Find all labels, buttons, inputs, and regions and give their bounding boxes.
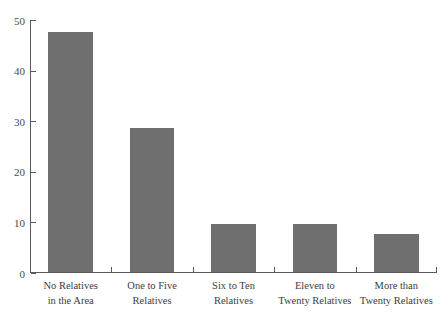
x-category-label-line1: No Relatives [43, 280, 98, 291]
x-category-label: No Relativesin the Area [30, 278, 111, 308]
y-tick-mark [31, 71, 36, 72]
y-tick-mark [31, 172, 36, 173]
x-tick-mark [274, 267, 275, 273]
x-category-label: Eleven toTwenty Relatives [274, 278, 355, 308]
y-tick-label: 40 [14, 66, 25, 77]
y-tick: 40 [30, 71, 36, 72]
bar [374, 234, 419, 272]
x-tick-mark [356, 267, 357, 273]
y-tick: 30 [30, 121, 36, 122]
x-category-label: Six to TenRelatives [193, 278, 274, 308]
y-tick-label: 30 [14, 116, 25, 127]
x-category-label-line2: in the Area [30, 293, 111, 308]
x-category-label-line1: Six to Ten [212, 280, 255, 291]
y-axis-line [30, 20, 31, 273]
x-tick-mark [193, 267, 194, 273]
plot-area: 01020304050 [30, 20, 437, 273]
x-category-label-line2: Relatives [111, 293, 192, 308]
y-tick: 20 [30, 172, 36, 173]
x-axis-right-cap [436, 267, 437, 273]
y-tick-mark [31, 222, 36, 223]
x-tick-mark [111, 267, 112, 273]
y-tick-label: 20 [14, 167, 25, 178]
x-category-label-line1: One to Five [127, 280, 177, 291]
y-tick-mark [31, 20, 36, 21]
x-category-label-line1: Eleven to [295, 280, 335, 291]
x-category-label-line1: More than [375, 280, 418, 291]
y-tick-mark [31, 121, 36, 122]
bar [130, 128, 175, 272]
y-tick-label: 0 [20, 268, 26, 279]
y-tick-label: 50 [14, 15, 25, 26]
y-tick: 0 [30, 273, 36, 274]
x-category-label: More thanTwenty Relatives [356, 278, 437, 308]
bar [211, 224, 256, 272]
x-category-label-line2: Twenty Relatives [274, 293, 355, 308]
bar-chart-figure: 01020304050 No Relativesin the AreaOne t… [0, 0, 446, 319]
bar [293, 224, 338, 272]
x-category-label-line2: Twenty Relatives [356, 293, 437, 308]
x-axis-line [30, 272, 437, 273]
y-tick: 10 [30, 222, 36, 223]
x-axis-category-labels: No Relativesin the AreaOne to FiveRelati… [30, 278, 437, 316]
x-category-label: One to FiveRelatives [111, 278, 192, 308]
y-tick: 50 [30, 20, 36, 21]
y-tick-label: 10 [14, 217, 25, 228]
x-category-label-line2: Relatives [193, 293, 274, 308]
y-tick-mark [31, 273, 36, 274]
bar [48, 32, 93, 272]
